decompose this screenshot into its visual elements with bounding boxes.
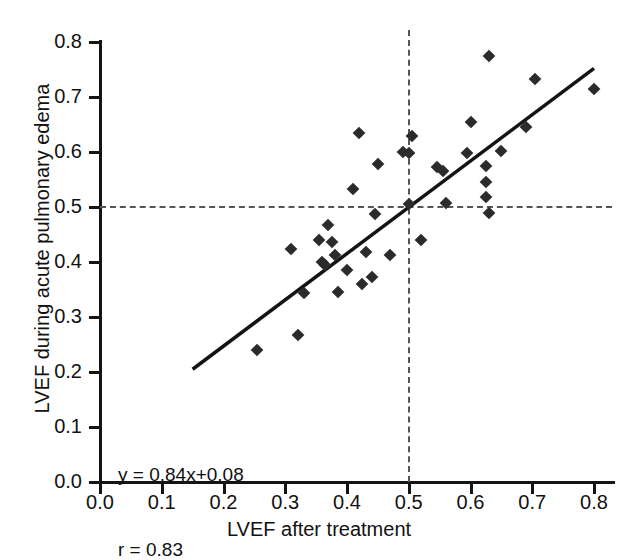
x-tick-label: 0.8: [564, 492, 624, 512]
data-point: [291, 329, 304, 342]
reference-line-horizontal: [100, 206, 612, 208]
regression-equation: y = 0.84x+0.08: [118, 462, 244, 487]
data-point: [402, 198, 415, 211]
data-point: [480, 176, 493, 189]
data-point: [483, 206, 496, 219]
data-point: [341, 264, 354, 277]
data-point: [415, 234, 428, 247]
y-axis-label: LVEF during acute pulmonary edema: [31, 29, 54, 469]
x-tick-label: 0.3: [255, 492, 315, 512]
data-point: [322, 218, 335, 231]
reference-line-vertical: [408, 30, 410, 482]
data-point: [313, 234, 326, 247]
data-point: [331, 286, 344, 299]
x-axis-label: LVEF after treatment: [0, 518, 638, 541]
y-tick-mark: [89, 151, 100, 154]
data-point: [529, 72, 542, 85]
data-point: [368, 207, 381, 220]
data-point: [480, 191, 493, 204]
data-point: [359, 246, 372, 259]
y-tick-label: 0.0: [36, 471, 82, 491]
data-point: [384, 249, 397, 262]
data-point: [588, 82, 601, 95]
data-point: [495, 145, 508, 158]
data-point: [464, 115, 477, 128]
y-tick-mark: [89, 206, 100, 209]
x-tick-label: 0.7: [502, 492, 562, 512]
y-tick-mark: [89, 261, 100, 264]
data-point: [353, 126, 366, 139]
y-tick-mark: [89, 426, 100, 429]
y-tick-mark: [89, 371, 100, 374]
y-tick-mark: [89, 41, 100, 44]
y-tick-mark: [89, 96, 100, 99]
data-point: [365, 271, 378, 284]
x-tick-label: 0.5: [379, 492, 439, 512]
data-point: [251, 344, 264, 357]
data-point: [480, 159, 493, 172]
data-point: [285, 242, 298, 255]
x-tick-label: 0.4: [317, 492, 377, 512]
data-point: [483, 49, 496, 62]
y-tick-mark: [89, 316, 100, 319]
data-point: [297, 287, 310, 300]
x-tick-label: 0.6: [441, 492, 501, 512]
data-point: [520, 121, 533, 134]
data-point: [328, 249, 341, 262]
data-point: [461, 147, 474, 160]
data-point: [347, 182, 360, 195]
data-point: [356, 278, 369, 291]
data-point: [325, 236, 338, 249]
data-point: [372, 158, 385, 171]
